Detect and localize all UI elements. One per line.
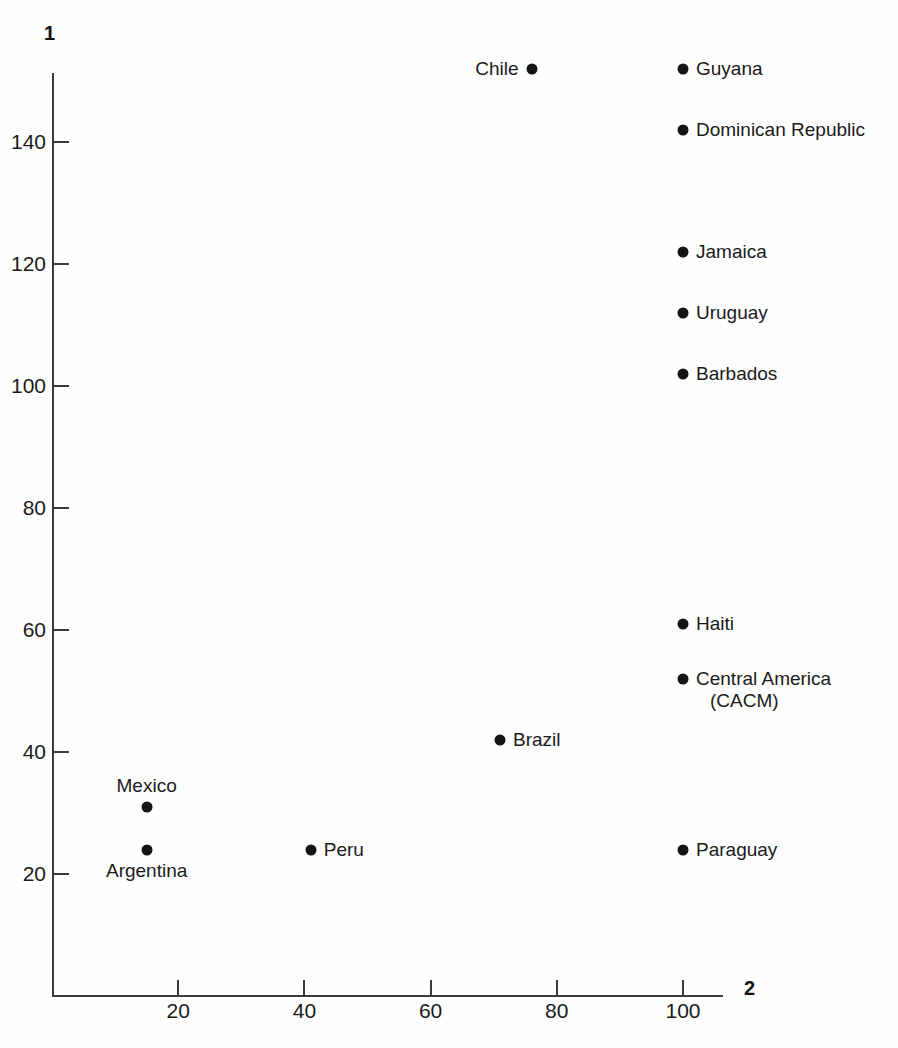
data-point-label: Peru xyxy=(324,839,364,861)
data-point-label: Haiti xyxy=(696,613,734,635)
x-tick-mark xyxy=(303,980,305,995)
x-tick-mark xyxy=(430,980,432,995)
data-point-label: Mexico xyxy=(117,775,177,797)
data-point[interactable] xyxy=(141,801,152,812)
y-tick-mark xyxy=(54,873,69,875)
y-tick-mark xyxy=(54,507,69,509)
data-point[interactable] xyxy=(678,618,689,629)
data-point[interactable] xyxy=(678,307,689,318)
y-tick-mark xyxy=(54,141,69,143)
data-point-label: Brazil xyxy=(513,729,561,751)
x-tick-label: 100 xyxy=(648,999,718,1023)
data-point-label-line2: (CACM) xyxy=(696,690,831,712)
y-tick-label: 100 xyxy=(0,374,46,398)
x-tick-label: 80 xyxy=(522,999,592,1023)
x-axis-title: 2 xyxy=(744,977,755,1000)
y-tick-mark xyxy=(54,385,69,387)
x-tick-label: 40 xyxy=(269,999,339,1023)
y-tick-label: 20 xyxy=(0,862,46,886)
scatter-plot-figure: 1 2 2040608010012014020406080100ChileGuy… xyxy=(0,0,898,1048)
y-tick-mark xyxy=(54,751,69,753)
x-tick-mark xyxy=(556,980,558,995)
data-point[interactable] xyxy=(678,63,689,74)
x-tick-mark xyxy=(177,980,179,995)
y-tick-label: 40 xyxy=(0,740,46,764)
data-point-label-line1: Central America xyxy=(696,668,831,689)
y-tick-label: 60 xyxy=(0,618,46,642)
x-tick-label: 20 xyxy=(143,999,213,1023)
data-point-label: Central America(CACM) xyxy=(696,668,831,712)
data-point-label: Paraguay xyxy=(696,839,777,861)
data-point-label: Dominican Republic xyxy=(696,119,865,141)
data-point-label: Guyana xyxy=(696,58,763,80)
y-axis-line xyxy=(52,73,54,997)
data-point[interactable] xyxy=(678,124,689,135)
data-point[interactable] xyxy=(678,368,689,379)
data-point-label: Argentina xyxy=(106,860,187,882)
data-point-label: Uruguay xyxy=(696,302,768,324)
data-point[interactable] xyxy=(678,246,689,257)
x-axis-line xyxy=(52,995,723,997)
data-point[interactable] xyxy=(495,734,506,745)
data-point[interactable] xyxy=(678,673,689,684)
data-point-label: Barbados xyxy=(696,363,777,385)
paper-grain-texture xyxy=(0,0,898,1048)
y-tick-mark xyxy=(54,263,69,265)
y-axis-title: 1 xyxy=(44,22,55,45)
data-point[interactable] xyxy=(141,844,152,855)
data-point-label: Chile xyxy=(475,58,518,80)
data-point-label: Jamaica xyxy=(696,241,767,263)
y-tick-label: 80 xyxy=(0,496,46,520)
x-tick-mark xyxy=(682,980,684,995)
data-point[interactable] xyxy=(305,844,316,855)
data-point[interactable] xyxy=(526,63,537,74)
y-tick-label: 120 xyxy=(0,252,46,276)
y-tick-mark xyxy=(54,629,69,631)
data-point[interactable] xyxy=(678,844,689,855)
x-tick-label: 60 xyxy=(396,999,466,1023)
y-tick-label: 140 xyxy=(0,130,46,154)
